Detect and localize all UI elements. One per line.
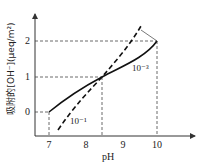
connector-line [141,30,157,41]
series-solid-10-3 [49,41,157,112]
x-tick-8: 8 [84,139,89,150]
annotation-10-3: 10⁻³ [132,63,149,73]
y-axis-label-wrapper: 吸附的[OH⁻](μeq/m²) [3,18,17,118]
x-tick-7: 7 [47,139,52,150]
x-axis-label: pH [102,151,114,162]
x-tick-9: 9 [121,139,126,150]
y-axis-label: 吸附的[OH⁻](μeq/m²) [4,22,17,114]
annotation-10-1: 10⁻¹ [70,116,87,126]
chart-plot: 7 8 9 10 0 1 2 pH 10⁻³ 10⁻¹ [0,0,202,166]
reference-lines [35,41,157,136]
y-tick-0: 0 [25,106,30,117]
y-tick-1: 1 [25,71,30,82]
y-tick-2: 2 [25,35,30,46]
x-tick-10: 10 [152,139,162,150]
